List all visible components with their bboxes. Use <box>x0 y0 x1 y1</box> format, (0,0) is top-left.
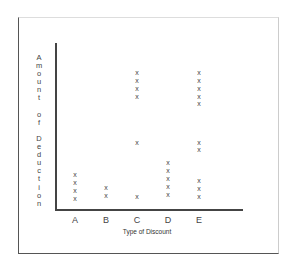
x-marker-icon: x <box>104 184 108 191</box>
x-marker-icon: x <box>104 192 108 199</box>
x-marker-icon: x <box>166 159 170 166</box>
x-tick-d: D <box>165 215 172 225</box>
x-marker-icon: x <box>135 69 139 76</box>
x-tick-a: A <box>72 215 78 225</box>
x-tick-c: C <box>134 215 141 225</box>
x-marker-icon: x <box>73 195 77 202</box>
x-marker-icon: x <box>197 93 201 100</box>
x-marker-icon: x <box>135 93 139 100</box>
x-axis <box>55 209 243 211</box>
x-marker-icon: x <box>197 193 201 200</box>
x-marker-icon: x <box>197 146 201 153</box>
x-marker-icon: x <box>135 139 139 146</box>
y-axis-label: A m o u n t o f D e d u c t i o n <box>34 54 44 208</box>
x-marker-icon: x <box>166 183 170 190</box>
x-marker-icon: x <box>197 69 201 76</box>
x-marker-icon: x <box>166 191 170 198</box>
x-marker-icon: x <box>166 167 170 174</box>
x-axis-label: Type of Discount <box>123 228 171 235</box>
x-tick-e: E <box>196 215 202 225</box>
x-marker-icon: x <box>197 139 201 146</box>
x-marker-icon: x <box>135 193 139 200</box>
x-marker-icon: x <box>197 77 201 84</box>
x-marker-icon: x <box>135 85 139 92</box>
x-marker-icon: x <box>73 179 77 186</box>
x-marker-icon: x <box>166 175 170 182</box>
figure-frame <box>18 17 279 254</box>
x-marker-icon: x <box>73 187 77 194</box>
x-marker-icon: x <box>197 177 201 184</box>
x-tick-b: B <box>103 215 109 225</box>
x-marker-icon: x <box>197 185 201 192</box>
x-marker-icon: x <box>135 77 139 84</box>
x-marker-icon: x <box>73 171 77 178</box>
x-marker-icon: x <box>197 85 201 92</box>
y-axis <box>55 43 57 210</box>
x-marker-icon: x <box>197 100 201 107</box>
